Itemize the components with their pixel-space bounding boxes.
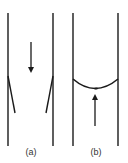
panel-b <box>73 13 118 146</box>
left-flap-a <box>8 76 15 113</box>
right-flap-a <box>46 76 53 113</box>
panel-label-b: (b) <box>84 146 108 158</box>
panel-a <box>8 13 53 146</box>
meniscus-contact-point <box>94 88 98 90</box>
diagram-figure <box>0 0 128 163</box>
meniscus-curve-b <box>73 79 118 89</box>
panel-label-a: (a) <box>19 146 43 158</box>
